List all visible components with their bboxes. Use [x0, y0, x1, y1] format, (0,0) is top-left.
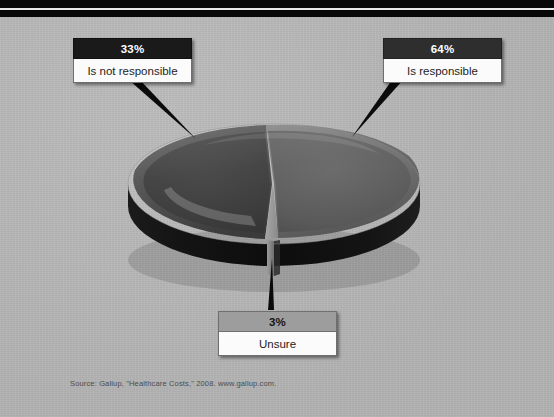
callout-is-not-responsible[interactable]: 33% Is not responsible — [73, 38, 192, 83]
callout-percent-unsure: 3% — [218, 311, 337, 332]
slide-canvas: 33% Is not responsible 64% Is responsibl… — [0, 0, 554, 417]
callout-label-is-responsible: Is responsible — [383, 59, 502, 83]
callout-percent-is-not-responsible: 33% — [73, 38, 192, 59]
callout-label-is-not-responsible: Is not responsible — [73, 59, 192, 83]
callout-is-responsible[interactable]: 64% Is responsible — [383, 38, 502, 83]
callout-unsure[interactable]: 3% Unsure — [218, 311, 337, 356]
callout-percent-is-responsible: 64% — [383, 38, 502, 59]
callout-label-unsure: Unsure — [218, 332, 337, 356]
leader-line-is-responsible — [352, 80, 403, 137]
leader-line-is-not-responsible — [129, 80, 196, 139]
leader-line-unsure — [268, 258, 274, 310]
